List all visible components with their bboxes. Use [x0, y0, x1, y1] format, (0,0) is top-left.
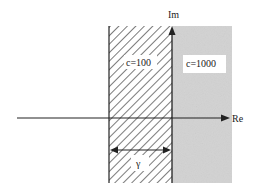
- complex-plane-diagram: Im Re c=100 c=1000 γ: [0, 0, 260, 193]
- region-shaded: [172, 26, 232, 183]
- real-axis-label: Re: [232, 113, 244, 124]
- imag-axis-label: Im: [168, 9, 179, 20]
- region-hatched-label: c=100: [126, 57, 151, 68]
- region-shaded-label: c=1000: [186, 58, 216, 69]
- gamma-label: γ: [135, 158, 141, 169]
